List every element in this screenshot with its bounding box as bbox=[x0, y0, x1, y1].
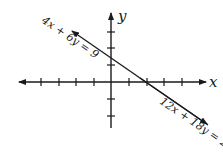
y-axis bbox=[107, 13, 115, 128]
coordinate-graph: y x 4x + 6y = 9 12x + 18y = 27 bbox=[0, 0, 223, 154]
equation-label-1: 4x + 6y = 9 bbox=[38, 13, 101, 61]
y-axis-label: y bbox=[117, 7, 127, 25]
x-axis-label: x bbox=[209, 73, 218, 91]
equation-label-2: 12x + 18y = 27 bbox=[157, 95, 223, 154]
x-axis bbox=[19, 78, 206, 86]
